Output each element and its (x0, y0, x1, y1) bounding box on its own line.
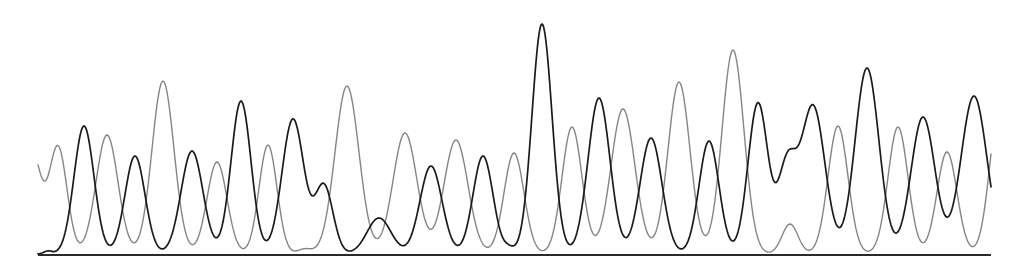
chromatogram-plot (0, 0, 1026, 280)
